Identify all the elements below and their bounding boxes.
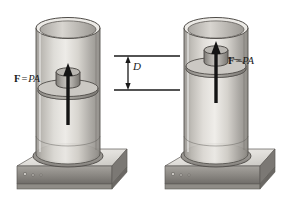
figure-container: F=PA F=PA D — [0, 0, 290, 203]
left-base-bolt-3 — [40, 174, 42, 176]
left-cylinder-rim-inner — [40, 21, 96, 38]
dimension-label-d: D — [133, 61, 141, 72]
right-base-front-face — [165, 166, 260, 184]
right-base-plinth — [165, 184, 260, 189]
piston-cylinder-diagram — [0, 0, 290, 203]
right-base-bolt-2 — [180, 174, 183, 177]
right-assembly — [165, 18, 275, 190]
force-label-right-expression: PA — [242, 55, 253, 66]
dimension-arrow-head-up — [125, 56, 130, 63]
left-base-front-face — [17, 166, 112, 184]
left-base-bolt-2 — [32, 174, 35, 177]
left-assembly — [17, 18, 127, 190]
force-label-left: F=PA — [14, 74, 40, 85]
force-label-left-expression: PA — [28, 73, 39, 84]
dimension-d-annotation — [114, 56, 180, 90]
left-base-plinth — [17, 184, 112, 189]
dimension-arrow-head-down — [125, 83, 130, 90]
right-cylinder-rim-inner — [188, 21, 244, 38]
right-base-bolt-3 — [188, 174, 190, 176]
left-base-bolt-1 — [23, 172, 26, 175]
right-base-bolt-1 — [171, 172, 174, 175]
force-label-right: F=PA — [228, 56, 254, 67]
